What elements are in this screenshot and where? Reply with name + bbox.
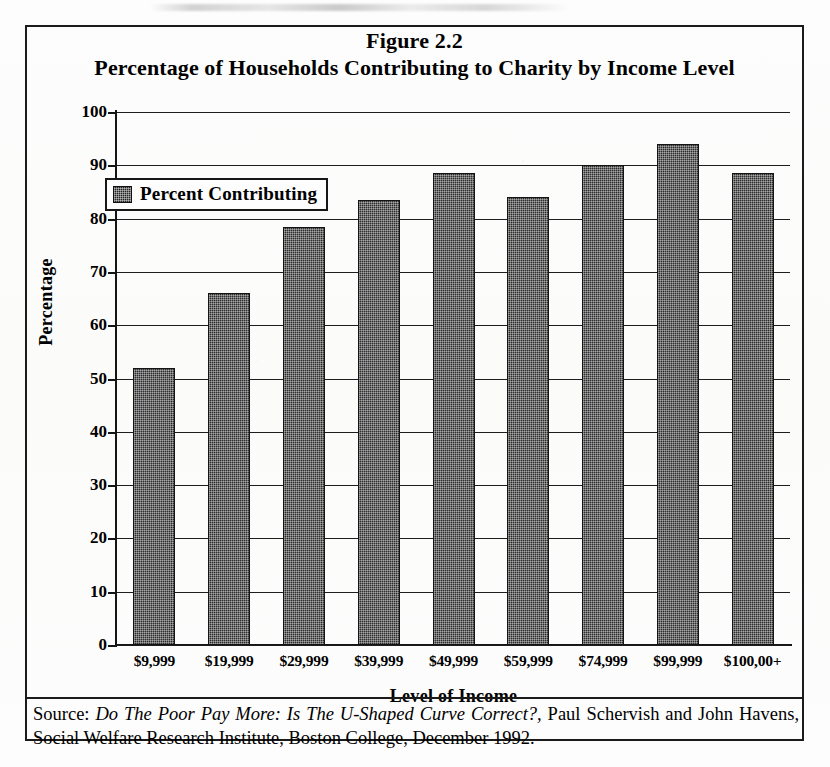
source-divider — [25, 697, 804, 699]
bar — [433, 173, 475, 645]
bar — [507, 197, 549, 645]
legend-label: Percent Contributing — [140, 183, 317, 205]
y-axis-tick-label: 20 — [61, 531, 107, 545]
y-axis-tick — [108, 325, 117, 327]
y-axis-tick-label: 60 — [61, 318, 107, 332]
x-axis-tick-labels: $9,999$19,999$29,999$39,999$49,999$59,99… — [117, 652, 790, 670]
gridline — [117, 645, 790, 646]
y-axis-tick-label: 40 — [61, 425, 107, 439]
y-axis-tick — [108, 272, 117, 274]
scan-artifact — [150, 4, 570, 11]
figure-title: Percentage of Households Contributing to… — [27, 54, 802, 82]
bar — [582, 165, 624, 645]
bar — [208, 293, 250, 645]
x-axis-tick-label: $19,999 — [192, 652, 267, 670]
x-axis-tick-label: $100,00+ — [715, 652, 790, 670]
y-axis-tick-label: 70 — [61, 265, 107, 279]
chart-legend: Percent Contributing — [105, 178, 328, 211]
source-publication-title: Do The Poor Pay More: Is The U-Shaped Cu… — [95, 704, 541, 724]
y-axis-tick — [108, 112, 117, 114]
legend-swatch-icon — [113, 186, 132, 203]
x-axis-tick-label: $39,999 — [341, 652, 416, 670]
x-axis-tick-label: $29,999 — [267, 652, 342, 670]
bar — [657, 144, 699, 645]
y-axis-tick-label: 80 — [61, 212, 107, 226]
bar — [283, 227, 325, 645]
x-axis-tick-label: $59,999 — [491, 652, 566, 670]
y-axis-tick — [108, 538, 117, 540]
y-axis-tick-label: 90 — [61, 158, 107, 172]
bar-slot — [416, 112, 491, 645]
y-axis-tick-label: 10 — [61, 585, 107, 599]
y-axis-tick-labels: 1009080706050403020100 — [55, 112, 107, 645]
bar — [732, 173, 774, 645]
figure-title-block: Figure 2.2 Percentage of Households Cont… — [27, 28, 802, 82]
x-axis-tick-label: $99,999 — [640, 652, 715, 670]
y-axis-title: Percentage — [36, 192, 57, 412]
y-axis-tick — [108, 432, 117, 434]
y-axis-tick-label: 50 — [61, 372, 107, 386]
bar-slot — [640, 112, 715, 645]
source-note: Source: Do The Poor Pay More: Is The U-S… — [33, 702, 799, 750]
x-axis-tick-label: $74,999 — [566, 652, 641, 670]
x-axis-tick-label: $49,999 — [416, 652, 491, 670]
y-axis-tick-label: 100 — [61, 105, 107, 119]
bar-slot — [566, 112, 641, 645]
bar-slot — [715, 112, 790, 645]
y-axis-tick-label: 30 — [61, 478, 107, 492]
y-axis-tick — [108, 165, 117, 167]
y-axis-tick — [108, 485, 117, 487]
bar — [133, 368, 175, 645]
y-axis-tick — [108, 645, 117, 647]
source-prefix: Source: — [33, 704, 95, 724]
y-axis-tick-label: 0 — [61, 638, 107, 652]
x-axis-tick-label: $9,999 — [117, 652, 192, 670]
bar — [358, 200, 400, 645]
y-axis-tick — [108, 379, 117, 381]
bar-slot — [491, 112, 566, 645]
y-axis-tick — [108, 219, 117, 221]
figure-number: Figure 2.2 — [27, 28, 802, 54]
bar-slot — [341, 112, 416, 645]
y-axis-tick — [108, 592, 117, 594]
